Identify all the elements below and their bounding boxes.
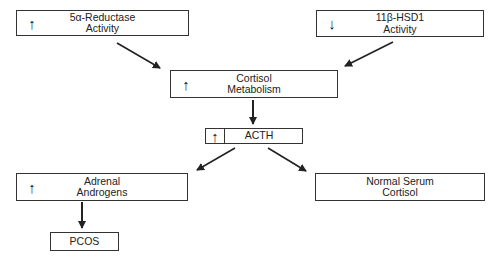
node-11b-hsd1-activity: ↓ 11β-HSD1 Activity — [316, 10, 484, 37]
edge-hsd1-to-cortisol — [345, 42, 393, 66]
node-normal-serum-cortisol: Normal Serum Cortisol — [315, 173, 485, 201]
up-arrow-icon: ↑ — [17, 174, 47, 200]
edge-acth-to-androgens — [197, 148, 235, 170]
up-arrow-icon: ↑ — [17, 11, 47, 35]
node-5a-reductase-activity: ↑ 5α-Reductase Activity — [16, 10, 189, 36]
node-cortisol-metabolism: ↑ Cortisol Metabolism — [170, 70, 338, 98]
edge-reductase-to-cortisol — [117, 43, 160, 68]
node-label: PCOS — [51, 236, 118, 248]
node-adrenal-androgens: ↑ Adrenal Androgens — [16, 173, 188, 201]
down-arrow-icon: ↓ — [317, 11, 347, 36]
node-label: Normal Serum Cortisol — [316, 176, 484, 199]
node-pcos: PCOS — [50, 232, 119, 251]
up-arrow-icon: ↑ — [206, 129, 225, 143]
up-arrow-icon: ↑ — [171, 71, 201, 97]
node-acth: ↑ ACTH — [205, 128, 303, 144]
edge-acth-to-serum-cortisol — [268, 148, 306, 171]
